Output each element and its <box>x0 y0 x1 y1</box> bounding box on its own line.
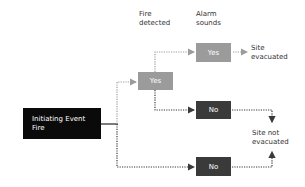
fire-detected-yes-box: Yes <box>138 72 173 90</box>
path-alarm-yes <box>155 52 194 72</box>
fire-detected-no-label: No <box>209 163 219 171</box>
connector-lines <box>0 0 305 187</box>
alarm-sounds-yes-box: Yes <box>196 43 231 62</box>
header-fire-detected: Fire detected <box>139 10 170 28</box>
initiating-event-line1: Initiating Event <box>32 115 85 124</box>
alarm-sounds-no-box: No <box>196 101 231 119</box>
initiating-event-box: Initiating Event Fire <box>23 108 101 139</box>
alarm-sounds-yes-label: Yes <box>208 49 219 57</box>
outcome-site-evacuated: Site evacuated <box>251 44 288 62</box>
path-not-evacuated-top <box>232 110 272 122</box>
outcome-not-evacuated-line1: Site not <box>252 129 289 138</box>
fire-detected-no-box: No <box>196 157 231 176</box>
outcome-not-evacuated-line2: evacuated <box>252 138 289 147</box>
path-not-evacuated-bottom <box>232 152 272 167</box>
outcome-evacuated-line2: evacuated <box>251 53 288 62</box>
path-fire-no <box>117 124 194 167</box>
outcome-site-not-evacuated: Site not evacuated <box>252 129 289 147</box>
outcome-evacuated-line1: Site <box>251 44 288 53</box>
fire-detected-yes-label: Yes <box>150 77 161 85</box>
header-fire-detected-text: Fire detected <box>139 10 170 28</box>
path-fire-yes <box>117 82 136 124</box>
path-alarm-no <box>155 90 194 110</box>
header-alarm-sounds-text: Alarm sounds <box>196 10 221 28</box>
initiating-event-line2: Fire <box>32 124 45 133</box>
header-alarm-sounds: Alarm sounds <box>196 10 221 28</box>
alarm-sounds-no-label: No <box>209 106 219 114</box>
